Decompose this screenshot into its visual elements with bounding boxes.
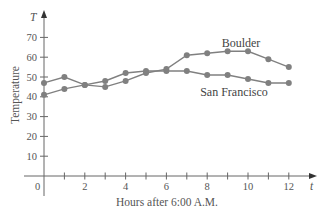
origin-label: 0 [35, 181, 40, 192]
san-francisco-data-point [163, 68, 169, 74]
san-francisco-data-point [82, 82, 88, 88]
boulder-data-point [123, 78, 129, 84]
y-tick-label: 50 [27, 72, 38, 83]
san-francisco-data-point [123, 70, 129, 76]
y-tick-label: 30 [27, 111, 38, 122]
boulder-data-point [286, 64, 292, 70]
boulder-data-point [265, 56, 271, 62]
x-tick-label: 2 [82, 181, 87, 192]
san-francisco-label: San Francisco [200, 85, 268, 99]
y-tick-label: 60 [27, 52, 38, 63]
san-francisco-data-point [286, 80, 292, 86]
x-tick-label: 10 [243, 181, 254, 192]
boulder-data-point [204, 50, 210, 56]
y-tick-label: 40 [27, 91, 38, 102]
san-francisco-data-point [245, 76, 251, 82]
x-tick-label: 4 [123, 181, 129, 192]
line-chart: 24681012 10203040506070 T t 0 Hours afte… [0, 0, 327, 219]
x-axis-arrow-icon [309, 173, 317, 179]
boulder-label: Boulder [222, 36, 261, 50]
boulder-data-point [41, 80, 47, 86]
y-tick-label: 10 [27, 151, 38, 162]
x-axis-title: Hours after 6:00 A.M. [116, 196, 218, 208]
san-francisco-data-point [61, 86, 67, 92]
y-axis-arrow-icon [41, 10, 47, 18]
x-tick-label: 6 [164, 181, 169, 192]
san-francisco-data-point [41, 92, 47, 98]
san-francisco-data-point [225, 72, 231, 78]
boulder-data-point [184, 52, 190, 58]
y-tick-label: 70 [27, 32, 38, 43]
axes [24, 10, 317, 196]
boulder-data-point [102, 84, 108, 90]
x-axis-symbol: t [310, 180, 314, 192]
san-francisco-data-point [102, 78, 108, 84]
boulder-data-point [61, 74, 67, 80]
san-francisco-data-point [143, 68, 149, 74]
x-ticks: 24681012 [64, 173, 294, 193]
san-francisco-data-point [184, 68, 190, 74]
y-axis-symbol: T [30, 11, 38, 23]
y-axis-title: Temperature [9, 66, 22, 124]
y-tick-label: 20 [27, 131, 38, 142]
x-tick-label: 8 [205, 181, 210, 192]
x-tick-label: 12 [284, 181, 295, 192]
san-francisco-data-point [204, 72, 210, 78]
